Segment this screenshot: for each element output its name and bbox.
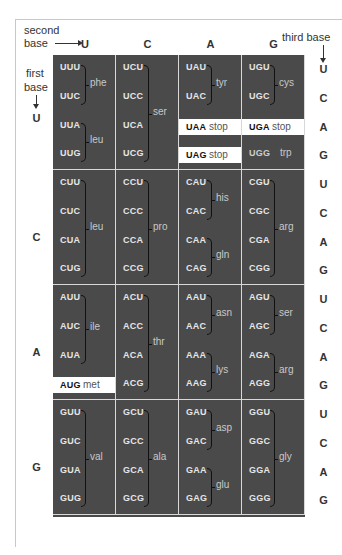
second-base-label-line1: second <box>24 24 59 36</box>
codon-label: CAG <box>186 263 207 273</box>
brace-icon <box>81 410 86 507</box>
third-base-label: A <box>305 121 342 133</box>
brace-icon <box>207 65 212 105</box>
codon-label: GCA <box>123 465 144 475</box>
codon-label: GGG <box>249 493 271 503</box>
codon-cell: UGUUGCcysUGAstopUGGtrp <box>242 55 305 170</box>
codon-label: GGU <box>249 407 270 417</box>
codon-label: GAC <box>186 436 207 446</box>
highlight-codon-band: AUGmet <box>53 377 115 393</box>
codon-label: CCU <box>123 177 143 187</box>
third-base-label: G <box>305 494 342 506</box>
codon-label: UGA <box>249 122 270 132</box>
brace-icon <box>207 295 212 335</box>
codon-label: GUA <box>60 465 81 475</box>
brace-icon <box>207 238 212 278</box>
codon-label: AGA <box>249 350 270 360</box>
codon-label: UAC <box>186 91 206 101</box>
amino-acid-label: asn <box>216 307 232 318</box>
codon-label: GUU <box>60 407 81 417</box>
codon-label: CAC <box>186 206 206 216</box>
second-base-header-G: G <box>242 38 305 50</box>
third-base-label: U <box>305 63 342 75</box>
highlight-codon-band: UAAstop <box>179 119 241 135</box>
codon-label: CUU <box>60 177 80 187</box>
first-base-header-C: C <box>20 231 53 243</box>
amino-acid-label: stop <box>209 149 228 160</box>
amino-acid-label: met <box>83 379 100 390</box>
third-base-label: U <box>305 408 342 420</box>
codon-label: CGU <box>249 177 270 187</box>
codon-label: UCU <box>123 62 143 72</box>
amino-acid-label: leu <box>90 221 103 232</box>
amino-acid-label: trp <box>280 147 292 158</box>
codon-label: AAU <box>186 292 206 302</box>
brace-icon <box>81 123 86 163</box>
brace-icon <box>207 353 212 393</box>
codon-cell: UAUUACtyrUAAstopUAGstop <box>179 55 242 170</box>
codon-label: CUC <box>60 206 80 216</box>
amino-acid-label: asp <box>216 422 232 433</box>
codon-label: UAG <box>186 150 207 160</box>
amino-acid-label: pro <box>153 221 167 232</box>
brace-icon <box>144 65 149 162</box>
brace-icon <box>207 410 212 450</box>
arrow-down-icon <box>323 45 324 59</box>
amino-acid-label: stop <box>272 121 291 132</box>
codon-label: ACU <box>123 292 143 302</box>
brace-icon <box>81 65 86 105</box>
codon-label: UUC <box>60 91 80 101</box>
codon-label: ACC <box>123 321 143 331</box>
codon-label: CCA <box>123 235 143 245</box>
codon-cell: ACUACCACAACGthr <box>116 285 179 400</box>
codon-label: ACG <box>123 378 144 388</box>
amino-acid-label: phe <box>90 77 107 88</box>
codon-table: UUUUUCUUAUUGpheleuUCUUCCUCAUCGserUAUUACt… <box>53 55 305 517</box>
amino-acid-label: gln <box>216 249 229 260</box>
codon-label: CGC <box>249 206 270 216</box>
codon-label: UUA <box>60 120 80 130</box>
first-base-header-G: G <box>20 461 53 473</box>
codon-label: GAA <box>186 465 207 475</box>
amino-acid-label: leu <box>90 134 103 145</box>
codon-label: AUG <box>60 380 81 390</box>
brace-icon <box>270 410 275 507</box>
codon-label: GAU <box>186 407 207 417</box>
codon-label: GGA <box>249 465 270 475</box>
arrow-down-icon <box>36 95 37 105</box>
codon-label: CAA <box>186 235 206 245</box>
codon-label: GGC <box>249 436 270 446</box>
codon-label: UUG <box>60 148 81 158</box>
second-base-header-A: A <box>179 38 242 50</box>
third-base-label: A <box>305 236 342 248</box>
codon-cell: CCUCCCCCACCGpro <box>116 170 179 285</box>
brace-icon <box>207 468 212 508</box>
third-base-label: C <box>305 92 342 104</box>
third-base-label: G <box>305 379 342 391</box>
second-base-header-C: C <box>116 38 179 50</box>
codon-label: UAU <box>186 62 206 72</box>
third-base-label: A <box>305 466 342 478</box>
amino-acid-label: lys <box>216 364 228 375</box>
brace-icon <box>270 295 275 335</box>
codon-cell: CAUCACCAACAGhisgln <box>179 170 242 285</box>
third-base-label: U <box>305 178 342 190</box>
codon-label: UGC <box>249 91 270 101</box>
codon-label: GCC <box>123 436 144 446</box>
codon-label: UCG <box>123 148 144 158</box>
codon-label: AAA <box>186 350 206 360</box>
codon-cell: UCUUCCUCAUCGser <box>116 55 179 170</box>
codon-label: UUU <box>60 62 80 72</box>
codon-cell: AAUAACAAAAAGasnlys <box>179 285 242 400</box>
codon-label: GUG <box>60 493 81 503</box>
codon-label: GUC <box>60 436 81 446</box>
frame-top-border <box>15 19 342 20</box>
amino-acid-label: val <box>90 451 103 462</box>
codon-label: CGG <box>249 263 270 273</box>
amino-acid-label: arg <box>279 364 293 375</box>
codon-label: AGC <box>249 321 270 331</box>
codon-label: GCU <box>123 407 144 417</box>
first-base-header-U: U <box>20 112 53 124</box>
second-base-label-line2: base <box>24 37 48 49</box>
amino-acid-label: gly <box>279 451 292 462</box>
